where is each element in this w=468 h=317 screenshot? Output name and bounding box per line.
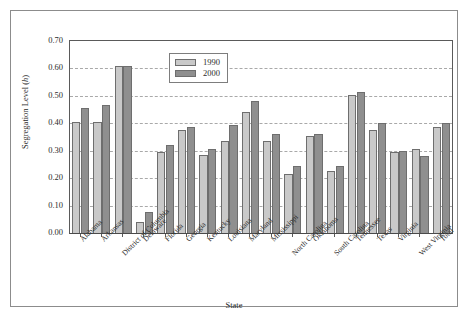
legend-item: 2000 [175,68,220,79]
bar-group [93,41,110,233]
y-tick-label: 0.60 [23,63,63,72]
x-tick-mark [419,234,420,237]
x-tick-mark [122,234,123,237]
bar-1990 [242,112,250,233]
bar-1990 [348,95,356,234]
x-tick-mark [292,234,293,237]
bar-group [242,41,259,233]
legend-item: 1990 [175,57,220,68]
bar-2000 [229,125,237,233]
bar-2000 [272,134,280,233]
bar-2000 [102,105,110,233]
bar-2000 [166,145,174,233]
bar-group [306,41,323,233]
bar-2000 [442,123,450,233]
y-tick-label: 0.40 [23,118,63,127]
bar-1990 [306,136,314,233]
bar-1990 [93,122,101,233]
bar-2000 [357,92,365,233]
bar-group [390,41,407,233]
legend-item-label: 1990 [203,58,220,67]
bar-2000 [420,156,428,233]
bar-group [136,41,153,233]
bar-group [348,41,365,233]
bar-2000 [187,127,195,233]
bar-1990 [178,130,186,233]
bar-group [369,41,386,233]
bar-group [327,41,344,233]
bar-group [284,41,301,233]
dark-gray-swatch [175,70,196,77]
bar-2000 [123,66,131,233]
bar-group [115,41,132,233]
y-tick-label: 0.10 [23,201,63,210]
x-axis-title: State [11,300,457,310]
bar-group [412,41,429,233]
bar-group [433,41,450,233]
y-axis-variable-symbol: h [20,78,30,82]
bar-2000 [378,123,386,233]
bar-group [72,41,89,233]
bar-1990 [433,127,441,233]
y-tick-label: 0.50 [23,91,63,100]
bar-1990 [72,122,80,233]
y-tick-label: 0.20 [23,173,63,182]
bar-2000 [81,108,89,233]
y-tick-label: 0.30 [23,146,63,155]
y-tick-label: 0.00 [23,228,63,237]
y-tick-label: 0.70 [23,36,63,45]
bar-2000 [399,151,407,233]
bar-1990 [115,66,123,233]
figure-bar-chart: Segregation Level (h) State 0.700.600.50… [0,0,468,317]
chart-outer-frame: Segregation Level (h) State 0.700.600.50… [10,10,458,307]
bar-2000 [208,149,216,233]
legend-item-label: 2000 [203,69,220,78]
bar-2000 [251,101,259,233]
bar-1990 [390,152,398,233]
plot-area [69,40,453,234]
chart-legend: 19902000 [169,53,228,83]
x-tick-mark [334,234,335,237]
light-gray-swatch [175,59,196,66]
bar-group [263,41,280,233]
